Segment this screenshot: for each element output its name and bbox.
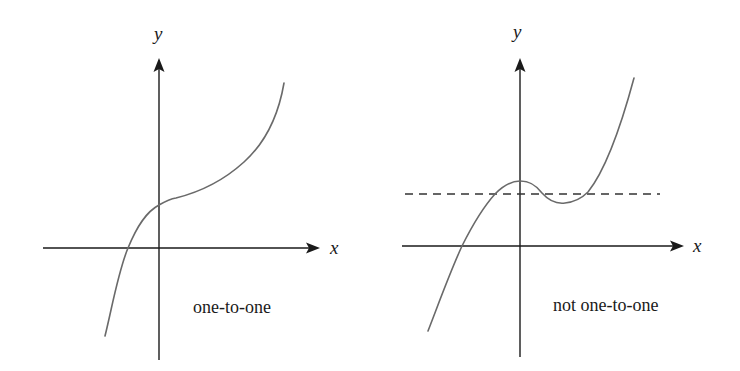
- left-panel: y x one-to-one: [43, 23, 339, 360]
- right-x-axis-label: x: [692, 235, 702, 256]
- left-caption: one-to-one: [193, 297, 271, 317]
- right-x-axis: [402, 241, 684, 252]
- right-caption: not one-to-one: [553, 295, 658, 315]
- left-x-axis-label: x: [329, 237, 339, 258]
- right-not-one-to-one-curve: [428, 78, 634, 331]
- left-y-axis-label: y: [152, 23, 163, 44]
- right-y-axis: [515, 58, 526, 357]
- right-panel: y x not one-to-one: [402, 21, 702, 357]
- one-to-one-comparison-diagram: y x one-to-one y x not one-to-one: [0, 0, 740, 371]
- left-x-axis: [43, 243, 320, 254]
- left-y-axis: [154, 58, 165, 360]
- right-y-axis-label: y: [511, 21, 522, 42]
